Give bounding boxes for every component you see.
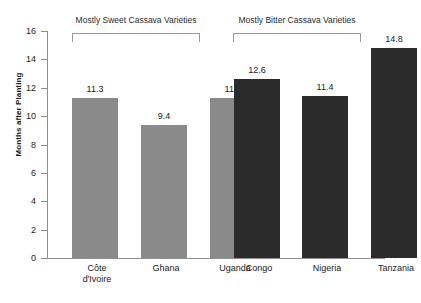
x-axis-line: [47, 258, 385, 259]
y-tick-16: [41, 31, 47, 32]
y-tick-14: [41, 59, 47, 60]
bar-value-label: 14.8: [385, 34, 403, 44]
plot-area: 11.3 9.4 11.3 12.6 11.4 14.8: [48, 31, 385, 258]
bar-tanzania[interactable]: 14.8: [371, 48, 417, 258]
bar-nigeria[interactable]: 11.4: [302, 96, 348, 258]
bar-value-label: 11.3: [87, 84, 104, 94]
bar-value-label: 9.4: [158, 111, 171, 121]
group-label-bitter: Mostly Bitter Cassava Varieties: [223, 15, 371, 25]
x-label-tanzania: Tanzania: [346, 263, 421, 274]
y-tick-6: [41, 173, 47, 174]
x-label-line2: d'Ivoire: [47, 274, 147, 285]
bar-congo[interactable]: 12.6: [234, 79, 280, 258]
y-tick-8: [41, 145, 47, 146]
bar-value-label: 11.4: [317, 82, 334, 92]
y-tick-label-10: 10: [0, 111, 36, 121]
y-tick-label-2: 2: [0, 225, 36, 235]
group-label-sweet: Mostly Sweet Cassava Varieties: [62, 15, 210, 25]
bar-cote-divoire[interactable]: 11.3: [72, 98, 118, 258]
y-tick-10: [41, 116, 47, 117]
bar-ghana[interactable]: 9.4: [141, 125, 187, 258]
y-tick-label-4: 4: [0, 196, 36, 206]
y-tick-label-16: 16: [0, 26, 36, 36]
bar-value-label: 12.6: [248, 65, 266, 75]
y-tick-12: [41, 88, 47, 89]
y-tick-0: [41, 258, 47, 259]
y-tick-label-14: 14: [0, 54, 36, 64]
y-tick-2: [41, 230, 47, 231]
y-tick-label-8: 8: [0, 140, 36, 150]
y-tick-label-12: 12: [0, 83, 36, 93]
y-tick-label-0: 0: [0, 253, 36, 263]
y-tick-4: [41, 201, 47, 202]
y-tick-label-6: 6: [0, 168, 36, 178]
